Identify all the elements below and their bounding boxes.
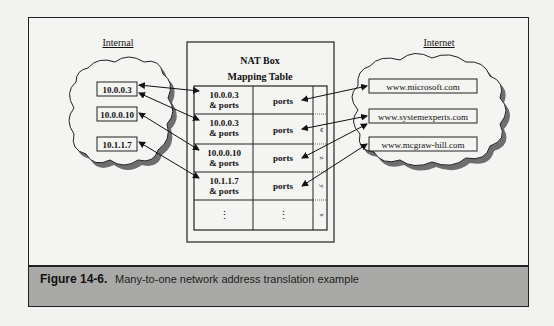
- internal-host-3: 10.1.1.7: [97, 137, 137, 151]
- svg-text:& ports: & ports: [209, 128, 239, 138]
- internal-host-1: 10.0.0.3: [97, 82, 137, 96]
- internet-host-1: www.microsoft.com: [369, 79, 477, 93]
- svg-text:ports: ports: [273, 153, 293, 163]
- svg-text:⋮: ⋮: [278, 209, 289, 221]
- internet-host-2: www.systemexperts.com: [369, 109, 477, 123]
- internet-title: Internet: [423, 37, 454, 48]
- svg-text:10.0.0.3: 10.0.0.3: [102, 85, 132, 95]
- nat-box-subtitle: Mapping Table: [228, 71, 293, 82]
- svg-text:ports: ports: [273, 125, 293, 135]
- svg-text:10.0.0.10: 10.0.0.10: [100, 110, 134, 120]
- internal-title: Internal: [102, 37, 133, 48]
- svg-text:⋮: ⋮: [219, 209, 230, 221]
- svg-text:www.microsoft.com: www.microsoft.com: [386, 82, 459, 92]
- svg-text:10.1.1.7: 10.1.1.7: [209, 176, 239, 186]
- svg-text:x: x: [318, 213, 326, 217]
- figure-label: Figure 14-6.: [40, 272, 107, 286]
- svg-text:y: y: [318, 184, 326, 188]
- svg-text:ports: ports: [273, 96, 293, 106]
- svg-text:www.mcgraw-hill.com: www.mcgraw-hill.com: [382, 140, 465, 150]
- svg-text:z: z: [318, 156, 326, 159]
- svg-text:& ports: & ports: [209, 100, 239, 110]
- svg-text:ports: ports: [273, 181, 293, 191]
- figure-caption: Many-to-one network address translation …: [115, 273, 359, 285]
- svg-text:10.1.1.7: 10.1.1.7: [102, 140, 132, 150]
- nat-box-title: NAT Box: [240, 55, 279, 66]
- svg-text:10.0.0.3: 10.0.0.3: [209, 118, 239, 128]
- svg-text:10.0.0.10: 10.0.0.10: [207, 148, 241, 158]
- svg-text:10.0.0.3: 10.0.0.3: [209, 90, 239, 100]
- svg-text:& ports: & ports: [209, 186, 239, 196]
- svg-text:www.systemexperts.com: www.systemexperts.com: [378, 112, 468, 122]
- svg-text:& ports: & ports: [209, 158, 239, 168]
- internet-host-3: www.mcgraw-hill.com: [369, 137, 477, 151]
- internal-host-2: 10.0.0.10: [97, 107, 137, 121]
